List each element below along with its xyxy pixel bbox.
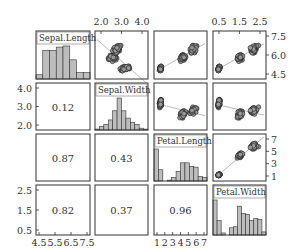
scatter-panel (213, 83, 266, 130)
histogram-bar (213, 200, 217, 235)
histogram-panel-sepal-length: Sepal.Length (36, 31, 97, 79)
scatter-panel (213, 31, 266, 79)
correlation-value: 0.12 (52, 102, 74, 113)
histogram-bar (113, 111, 117, 130)
right-axis-tick-label: 4.5 (271, 69, 286, 80)
histogram-bar (108, 120, 112, 130)
histogram-bar (233, 227, 237, 235)
left-axis-tick-label: 0.5 (17, 225, 32, 236)
histogram-bar (43, 50, 50, 79)
right-axis-tick-label: 3 (271, 158, 277, 169)
histogram-bar (203, 178, 207, 181)
histogram-bar (237, 206, 241, 235)
scatter-panel (95, 31, 148, 83)
correlation-panel: 0.96 (154, 185, 207, 235)
data-point (216, 67, 221, 72)
variable-label: Petal.Width (216, 187, 266, 197)
data-point (190, 108, 195, 113)
histogram-panel-petal-width: Petal.Width (213, 185, 266, 235)
histogram-bar (158, 170, 162, 181)
histogram-bar (122, 111, 126, 130)
correlation-value: 0.37 (110, 205, 132, 216)
variable-label: Sepal.Length (39, 33, 97, 43)
correlation-panel: 0.37 (95, 185, 148, 235)
histogram-bar (154, 149, 158, 181)
data-point (216, 173, 221, 178)
data-point (248, 108, 253, 113)
top-axis-tick-label: 3.0 (114, 16, 129, 27)
histogram-bar (189, 166, 193, 181)
left-axis-tick-label: 1.5 (17, 205, 32, 216)
data-point (248, 145, 253, 150)
bottom-axis-tick-label: 5.5 (47, 237, 62, 248)
bottom-axis-tick-label: 7 (201, 237, 207, 248)
histogram-bar (56, 47, 63, 79)
bottom-axis-tick-label: 4.5 (31, 237, 46, 248)
histogram-bar (246, 214, 250, 235)
data-point (126, 66, 131, 71)
correlation-value: 0.82 (52, 205, 74, 216)
correlation-panel: 0.87 (36, 134, 90, 181)
right-axis-tick-label: 7.5 (271, 31, 286, 42)
left-axis-tick-label: 4.0 (17, 83, 32, 94)
right-axis-tick-label: 5 (271, 146, 277, 157)
correlation-panel: 0.12 (36, 83, 90, 130)
data-point (182, 111, 187, 116)
bottom-axis-tick-label: 6 (193, 237, 199, 248)
histogram-bar (36, 75, 43, 79)
data-point (111, 55, 116, 60)
histogram-bar (176, 171, 180, 181)
bottom-axis-tick-label: 2 (162, 237, 168, 248)
histogram-bar (63, 46, 70, 79)
data-point (158, 67, 163, 72)
right-axis-tick-label: 7 (271, 134, 277, 145)
bottom-axis-tick-label: 3 (170, 237, 176, 248)
variable-label: Sepal.Width (98, 85, 151, 95)
histogram-bar (130, 123, 134, 130)
bottom-axis-tick-label: 6.5 (63, 237, 78, 248)
histogram-bar (217, 221, 221, 235)
histogram-bar (99, 126, 103, 130)
histogram-bar (181, 163, 185, 181)
histogram-bar (70, 60, 77, 79)
data-point (238, 55, 243, 60)
data-point (115, 45, 120, 50)
correlation-panel: 0.43 (95, 134, 148, 181)
scatter-panel (213, 134, 266, 181)
data-point (238, 111, 243, 116)
data-point (122, 67, 127, 72)
scatter-panel (154, 83, 207, 130)
data-point (190, 45, 195, 50)
histogram-bar (77, 73, 84, 79)
data-point (158, 102, 163, 107)
scatter-panel (154, 31, 207, 79)
scatterplot-matrix: Sepal.Length0.12Sepal.Width0.870.43Petal… (0, 0, 299, 252)
top-axis-tick-label: 2.0 (93, 16, 108, 27)
top-axis-tick-label: 2.5 (252, 16, 267, 27)
histogram-bar (126, 118, 130, 130)
correlation-panel: 0.82 (36, 185, 90, 235)
histogram-bar (172, 178, 176, 181)
right-axis-tick-label: 6.0 (271, 50, 286, 61)
bottom-axis-tick-label: 1 (154, 237, 160, 248)
histogram-bar (185, 163, 189, 181)
histogram-bar (135, 125, 139, 130)
histogram-bar (242, 213, 246, 235)
histogram-bar (83, 73, 90, 79)
histogram-bar (250, 221, 254, 235)
histogram-panel-petal-length: Petal.Length (154, 134, 212, 181)
bottom-axis-tick-label: 7.5 (79, 237, 94, 248)
correlation-value: 0.43 (110, 153, 132, 164)
right-axis-tick-label: 1 (271, 171, 277, 182)
histogram-bar (194, 167, 198, 181)
bottom-axis-tick-label: 4 (177, 237, 183, 248)
top-axis-tick-label: 1.5 (232, 16, 247, 27)
histogram-bar (198, 177, 202, 181)
data-point (248, 45, 253, 50)
data-point (238, 152, 243, 157)
histogram-bar (104, 125, 108, 130)
top-axis-tick-label: 0.5 (211, 16, 226, 27)
histogram-bar (254, 219, 258, 235)
bottom-axis-tick-label: 5 (185, 237, 191, 248)
histogram-bar (50, 50, 57, 79)
